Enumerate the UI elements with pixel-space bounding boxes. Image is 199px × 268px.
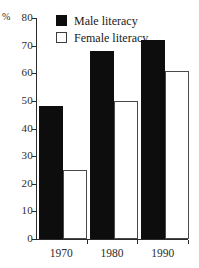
y-tick-label: 30 [22,149,33,162]
x-tick-mark [137,240,138,244]
plot-area: 01020304050607080 197019801990 [36,18,188,240]
bar-female-1990 [165,71,189,240]
bar-male-1980 [90,51,114,239]
bar-chart: % Male literacy Female literacy 01020304… [0,0,199,268]
y-tick-label: 10 [22,204,33,217]
x-axis-line [36,239,188,240]
y-tick-label: 80 [22,11,33,24]
x-tick-mark [87,240,88,244]
bar-male-1990 [141,40,165,239]
x-tick-label: 1980 [87,246,138,260]
x-tick-label: 1970 [36,246,87,260]
bar-female-1970 [63,170,87,239]
x-tick-mark [188,240,189,244]
y-tick-label: 20 [22,177,33,190]
bar-male-1970 [39,106,63,239]
y-tick-label: 70 [22,39,33,52]
y-tick-label: 60 [22,66,33,79]
y-tick-label: 50 [22,94,33,107]
y-tick-label: 40 [22,122,33,135]
y-axis-line [36,18,37,240]
bar-female-1980 [114,101,138,239]
x-tick-label: 1990 [137,246,188,260]
y-tick-label: 0 [27,232,33,245]
y-axis-unit-label: % [2,11,10,23]
